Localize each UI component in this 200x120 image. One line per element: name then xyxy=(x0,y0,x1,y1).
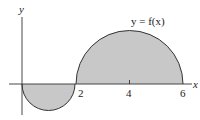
tick-label-4: 4 xyxy=(126,87,132,99)
curve-label: y = f(x) xyxy=(131,15,165,28)
positive-region xyxy=(76,31,183,84)
tick-label-2: 2 xyxy=(78,87,84,99)
y-axis-label: y xyxy=(18,3,24,15)
negative-region xyxy=(22,84,75,111)
tick-label-6: 6 xyxy=(180,87,186,99)
x-axis-label: x xyxy=(192,78,198,90)
function-graph: y x y = f(x) 2 4 6 xyxy=(0,0,200,120)
